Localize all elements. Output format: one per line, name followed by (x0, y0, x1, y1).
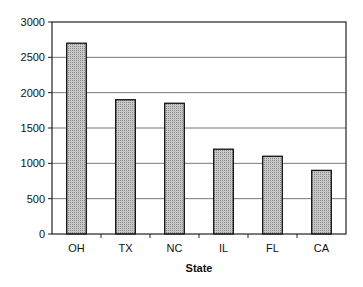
y-tick-label: 2000 (21, 87, 45, 99)
bar-oh (67, 43, 87, 234)
x-axis: OHTXNCILFLCA (68, 234, 330, 254)
x-tick-label: TX (118, 242, 133, 254)
bar-fl (263, 156, 283, 234)
y-axis: 050010001500200025003000 (21, 16, 52, 240)
y-tick-label: 1500 (21, 122, 45, 134)
x-tick-label: CA (314, 242, 330, 254)
y-tick-label: 2500 (21, 51, 45, 63)
y-tick-label: 1000 (21, 157, 45, 169)
x-tick-label: NC (167, 242, 183, 254)
y-tick-label: 3000 (21, 16, 45, 28)
bar-nc (165, 103, 185, 234)
bar-chart: 050010001500200025003000 OHTXNCILFLCA St… (0, 0, 363, 287)
bar-tx (116, 100, 136, 234)
x-tick-label: OH (68, 242, 85, 254)
bar-ca (312, 170, 332, 234)
bars (67, 43, 332, 234)
x-tick-label: FL (266, 242, 279, 254)
y-tick-label: 0 (39, 228, 45, 240)
y-tick-label: 500 (27, 193, 45, 205)
gridlines (52, 57, 346, 198)
x-axis-label: State (186, 262, 213, 274)
bar-il (214, 149, 234, 234)
x-tick-label: IL (219, 242, 228, 254)
